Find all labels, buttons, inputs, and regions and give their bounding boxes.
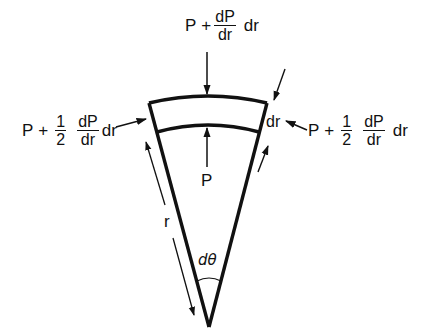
left-force-coefficient: 1 2 — [55, 113, 66, 148]
fraction-denominator: dr — [77, 131, 99, 148]
top-force-fraction: dP dr — [214, 8, 236, 43]
wedge-right-side — [209, 103, 267, 327]
outer-arc — [149, 96, 267, 103]
radius-label: r — [164, 213, 170, 230]
right-force-coefficient: 1 2 — [341, 113, 352, 148]
coefficient-numerator: 1 — [55, 113, 66, 131]
fraction-denominator: dr — [363, 131, 385, 148]
dr-arrow-bottom — [258, 146, 268, 172]
angle-label: dθ — [198, 253, 217, 268]
left-force-label: P + 1 2 dP dr dr — [22, 113, 117, 148]
left-force-arrow — [116, 119, 146, 127]
coefficient-denominator: 2 — [55, 131, 66, 148]
fraction-numerator: dP — [363, 113, 385, 131]
radius-arrow-down — [173, 238, 194, 315]
right-force-suffix: dr — [393, 122, 408, 139]
right-force-label: P + 1 2 dP dr dr — [308, 113, 408, 148]
left-force-plus: + — [38, 122, 48, 139]
wedge-left-side — [149, 103, 209, 327]
left-force-fraction: dP dr — [77, 113, 99, 148]
fraction-denominator: dr — [214, 26, 236, 43]
wedge-diagram — [0, 0, 442, 333]
right-force-plus: + — [324, 122, 334, 139]
coefficient-denominator: 2 — [341, 131, 352, 148]
fraction-numerator: dP — [214, 8, 236, 26]
top-force-base: P — [185, 17, 196, 34]
right-force-arrow — [286, 121, 307, 130]
right-force-base: P — [308, 122, 319, 139]
coefficient-numerator: 1 — [341, 113, 352, 131]
angle-arc — [197, 278, 221, 281]
top-force-plus: + — [201, 17, 211, 34]
inner-arc — [157, 125, 259, 132]
top-force-suffix: dr — [244, 17, 259, 34]
fraction-numerator: dP — [77, 113, 99, 131]
dr-arrow-top — [274, 69, 285, 100]
top-force-label: P + dP dr dr — [185, 8, 259, 43]
left-force-base: P — [22, 122, 33, 139]
left-force-suffix: dr — [102, 122, 117, 139]
bottom-force-label: P — [201, 172, 212, 189]
right-force-fraction: dP dr — [363, 113, 385, 148]
thickness-label: dr — [266, 114, 280, 130]
